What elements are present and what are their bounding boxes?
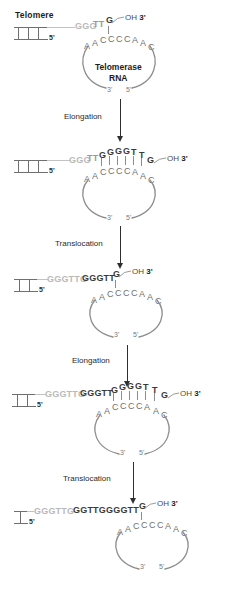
template-base: C bbox=[108, 166, 115, 176]
template-base: C bbox=[141, 520, 148, 530]
telomerase-diagram: Telomere 5' GGG TT G OH 3' A A bbox=[0, 0, 232, 597]
arrow-shaft bbox=[127, 345, 128, 382]
arrow-head bbox=[117, 136, 123, 142]
base-pair-bond bbox=[109, 156, 110, 165]
new-base: G bbox=[135, 381, 142, 391]
three-prime-label: 3' bbox=[194, 389, 200, 398]
base-pair-bond bbox=[115, 280, 116, 288]
oh-connector bbox=[119, 269, 133, 279]
rna-three-prime-label: 3' bbox=[140, 563, 145, 570]
telomerase-rna-label: Telomerase RNA bbox=[95, 62, 142, 84]
base-pair-bond bbox=[113, 393, 114, 401]
template-base: A bbox=[132, 167, 138, 177]
base-pair-bond bbox=[117, 156, 118, 165]
template-base: C bbox=[100, 167, 107, 177]
telomerase-rna-loop bbox=[80, 178, 158, 224]
rna-five-prime-label: 5' bbox=[126, 214, 131, 221]
rna-five-prime-label: 5' bbox=[133, 331, 138, 338]
hydroxyl-label: OH 3' bbox=[132, 267, 153, 276]
hydroxyl-label: OH 3' bbox=[180, 389, 201, 398]
mid-dna-segment: GGGTT bbox=[82, 273, 115, 283]
step-label: Elongation bbox=[72, 356, 110, 365]
duplex-ladder bbox=[14, 160, 48, 173]
telomere-label: Telomere bbox=[15, 10, 54, 20]
arrow-shaft bbox=[133, 462, 134, 499]
template-base: C bbox=[112, 402, 119, 412]
old-dna-segment: GGGTTG bbox=[34, 506, 74, 516]
step-label: Translocation bbox=[55, 239, 103, 248]
base-pair-bond bbox=[141, 158, 142, 166]
template-base: C bbox=[108, 34, 115, 44]
rna-five-prime-label: 5' bbox=[126, 86, 131, 93]
duplex-ladder bbox=[12, 394, 36, 407]
template-base: C bbox=[124, 34, 131, 44]
oh-text: OH bbox=[125, 13, 137, 22]
hydroxyl-label: OH 3' bbox=[167, 154, 188, 163]
oh-connector bbox=[154, 155, 168, 165]
duplex-ladder bbox=[14, 279, 38, 292]
telomerase-rna-loop bbox=[113, 530, 191, 574]
three-prime-label: 3' bbox=[146, 267, 152, 276]
single-strand-line bbox=[47, 27, 75, 28]
single-strand-line bbox=[47, 160, 70, 161]
duplex-ladder bbox=[14, 27, 48, 40]
rna-three-prime-label: 3' bbox=[107, 214, 112, 221]
template-base: C bbox=[131, 288, 138, 298]
new-base: G bbox=[127, 381, 134, 391]
base-pair-bond bbox=[145, 391, 146, 400]
hydroxyl-label: OH 3' bbox=[157, 499, 178, 508]
oh-text: OH bbox=[132, 267, 144, 276]
five-prime-label: 5' bbox=[29, 518, 35, 525]
template-base: C bbox=[136, 401, 143, 411]
new-base: G bbox=[123, 146, 130, 156]
five-prime-label: 5' bbox=[49, 167, 55, 174]
base-pair-bond bbox=[141, 512, 142, 520]
template-base: C bbox=[116, 34, 123, 44]
single-strand-line bbox=[27, 511, 34, 512]
telomerase-rna-loop bbox=[87, 298, 165, 342]
arrow-head bbox=[130, 498, 136, 504]
base-pair-bond bbox=[125, 156, 126, 165]
step-label: Translocation bbox=[63, 474, 111, 483]
hydroxyl-label: OH 3' bbox=[125, 13, 146, 22]
mid-dna-segment: GGGTT bbox=[80, 388, 113, 398]
new-base: G bbox=[115, 146, 122, 156]
mid-dna-segment: TT bbox=[87, 153, 98, 163]
rna-five-prime-label: 5' bbox=[139, 449, 144, 456]
five-prime-label: 5' bbox=[39, 286, 45, 293]
rna-three-prime-label: 3' bbox=[120, 449, 125, 456]
base-pair-bond bbox=[154, 393, 155, 401]
oh-text: OH bbox=[167, 154, 179, 163]
base-pair-bond bbox=[101, 158, 102, 166]
mid-dna-segment: TT bbox=[93, 19, 104, 29]
five-prime-label: 5' bbox=[37, 401, 43, 408]
duplex-ladder bbox=[14, 511, 28, 524]
base-pair-bond bbox=[121, 391, 122, 400]
base-pair-bond bbox=[133, 156, 134, 165]
arrow-shaft bbox=[120, 99, 121, 137]
template-base: C bbox=[124, 166, 131, 176]
three-prime-label: 3' bbox=[181, 154, 187, 163]
base-pair-bond bbox=[129, 391, 130, 400]
rna-three-prime-label: 3' bbox=[107, 86, 112, 93]
base-pair-bond bbox=[137, 391, 138, 400]
template-base: C bbox=[157, 520, 164, 530]
oh-text: OH bbox=[157, 499, 169, 508]
oh-text: OH bbox=[180, 389, 192, 398]
three-prime-label: 3' bbox=[139, 13, 145, 22]
enzyme-label-line1: Telomerase bbox=[95, 62, 142, 73]
three-prime-label: 3' bbox=[171, 499, 177, 508]
template-base: C bbox=[115, 288, 122, 298]
arrow-shaft bbox=[120, 226, 121, 264]
mid-dna-segment: GGTTGGGGTT bbox=[73, 505, 139, 515]
step-label: Elongation bbox=[64, 112, 102, 121]
template-base: C bbox=[116, 166, 123, 176]
five-prime-label: 5' bbox=[49, 34, 55, 41]
rna-five-prime-label: 5' bbox=[159, 563, 164, 570]
template-base: C bbox=[120, 401, 127, 411]
template-base: A bbox=[144, 402, 150, 412]
base-pair-bond bbox=[108, 26, 109, 34]
oh-connector bbox=[112, 15, 126, 25]
rna-three-prime-label: 3' bbox=[114, 331, 119, 338]
template-base: C bbox=[149, 520, 156, 530]
